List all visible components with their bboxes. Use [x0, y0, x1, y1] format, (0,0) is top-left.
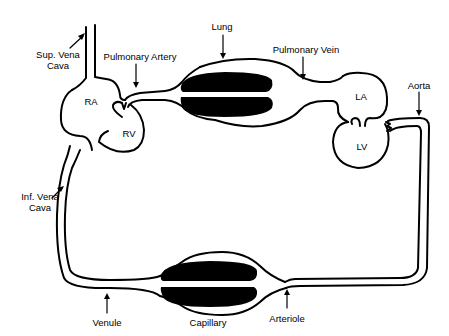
pulmonary-artery-arrow — [133, 64, 139, 88]
venule-inferior-vena-cava-vessel — [57, 146, 160, 296]
lung-tissue-lower — [181, 97, 273, 117]
label-capillary: Capillary — [190, 317, 227, 328]
pulmonary-vein-vessel — [320, 76, 343, 108]
right-ventricle — [99, 102, 144, 152]
label-pulmonary-artery: Pulmonary Artery — [104, 51, 177, 62]
lung-arrow — [220, 35, 226, 59]
label-lung: Lung — [211, 21, 232, 32]
label-right-atrium: RA — [84, 96, 98, 107]
capillary-tissue-upper — [161, 261, 257, 281]
systemic-capillary-bed — [160, 252, 286, 315]
circulation-diagram: Sup. Vena Cava Pulmonary Artery Lung Pul… — [0, 0, 449, 336]
label-pulmonary-vein: Pulmonary Vein — [273, 44, 340, 55]
label-inf-vena-cava-line2: Cava — [29, 202, 52, 213]
label-sup-vena-cava-line2: Cava — [47, 60, 70, 71]
label-left-atrium: LA — [355, 91, 367, 102]
label-aorta: Aorta — [408, 80, 431, 91]
venule-arrow — [104, 293, 110, 313]
label-left-ventricle: LV — [357, 141, 369, 152]
label-right-ventricle: RV — [122, 128, 136, 139]
sup-vena-cava-arrow — [70, 33, 85, 48]
arteriole-arrow — [284, 289, 290, 308]
label-venule: Venule — [92, 317, 121, 328]
right-atrium — [61, 79, 125, 150]
label-arteriole: Arteriole — [269, 313, 304, 324]
aorta-arrow — [416, 92, 422, 116]
capillary-tissue-lower — [161, 287, 257, 307]
label-inf-vena-cava-line1: Inf. Vena — [21, 191, 59, 202]
lung-tissue-upper — [181, 72, 273, 92]
label-sup-vena-cava-line1: Sup. Vena — [36, 49, 81, 60]
